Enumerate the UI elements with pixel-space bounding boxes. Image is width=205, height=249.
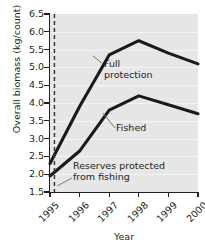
x-axis-tick	[168, 192, 169, 197]
annotation-reserves-protected: Reserves protected from fishing	[73, 160, 165, 182]
y-axis-tick-label-wrap: 2.0	[0, 169, 44, 179]
y-axis-tick	[44, 191, 49, 192]
y-axis-tick-label: 6.5	[4, 9, 44, 19]
x-axis-line	[49, 192, 199, 193]
y-axis-tick-label-wrap: 2.5	[0, 151, 44, 161]
x-axis-tick	[49, 192, 50, 197]
annotation-reserves-line2: from fishing	[73, 171, 165, 182]
y-axis-tick-label-wrap: 5.5	[0, 45, 44, 55]
y-axis-tick-label-wrap: 1.5	[0, 187, 44, 197]
y-axis-tick-label: 4.0	[4, 98, 44, 108]
biomass-line-chart: 6.56.05.55.04.54.03.53.02.52.01.5 199519…	[0, 0, 205, 249]
leader-line-reserves	[57, 178, 72, 186]
leader-line-fished	[103, 113, 115, 128]
y-axis-tick	[44, 120, 49, 121]
y-axis-tick	[44, 67, 49, 68]
y-axis-tick-label-wrap: 4.5	[0, 80, 44, 90]
annotation-fished: Fished	[116, 122, 146, 133]
y-axis-tick-label-wrap: 3.5	[0, 116, 44, 126]
y-axis-tick	[44, 85, 49, 86]
y-axis-tick	[44, 102, 49, 103]
y-axis-tick	[44, 31, 49, 32]
y-axis-tick	[44, 138, 49, 139]
annotation-full-protection: Full protection	[104, 58, 153, 80]
annotation-full-protection-line2: protection	[104, 69, 153, 80]
y-axis-tick	[44, 174, 49, 175]
y-axis-tick-label-wrap: 6.5	[0, 9, 44, 19]
y-axis-tick-label: 5.0	[4, 62, 44, 72]
y-axis-tick	[44, 156, 49, 157]
x-axis-tick	[109, 192, 110, 197]
y-axis-tick-label-wrap: 3.0	[0, 134, 44, 144]
y-axis-tick-label: 3.0	[4, 134, 44, 144]
annotation-reserves-line1: Reserves protected	[73, 160, 165, 171]
x-axis-tick	[197, 192, 198, 197]
y-axis-tick	[44, 13, 49, 14]
y-axis-line	[49, 13, 50, 193]
y-axis-tick-label: 2.0	[4, 169, 44, 179]
y-axis-tick	[44, 49, 49, 50]
y-axis-tick-label: 2.5	[4, 151, 44, 161]
y-axis-tick-label: 4.5	[4, 80, 44, 90]
leader-line-full-protection	[93, 56, 103, 64]
y-axis-tick-label-wrap: 6.0	[0, 27, 44, 37]
y-axis-tick-label: 5.5	[4, 45, 44, 55]
y-axis-tick-label-wrap: 5.0	[0, 62, 44, 72]
x-axis-title: Year	[50, 232, 198, 242]
y-axis-tick-label: 1.5	[4, 187, 44, 197]
y-axis-title: Overall biomass (kg/count)	[12, 0, 22, 144]
y-axis-tick-label-wrap: 4.0	[0, 98, 44, 108]
y-axis-tick-label: 3.5	[4, 116, 44, 126]
x-axis-tick	[79, 192, 80, 197]
annotation-full-protection-line1: Full	[104, 58, 153, 69]
x-axis-tick	[138, 192, 139, 197]
y-axis-tick-label: 6.0	[4, 27, 44, 37]
